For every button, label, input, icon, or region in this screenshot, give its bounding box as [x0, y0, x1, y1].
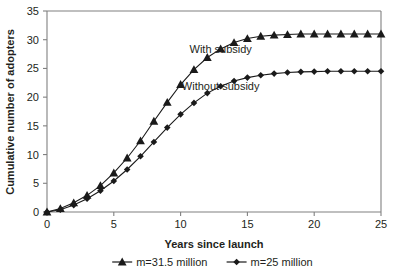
- legend-label: m=25 million: [251, 256, 313, 268]
- chart-legend: m=31.5 millionm=25 million: [112, 256, 312, 268]
- triangle-marker-icon: [149, 117, 158, 125]
- y-tick-label: 10: [27, 149, 39, 161]
- x-axis-ticks: 0510152025: [44, 212, 387, 230]
- series-layer: [43, 30, 386, 216]
- curve-annotation-1: With subsidy: [190, 43, 253, 55]
- x-tick-label: 10: [174, 218, 186, 230]
- diamond-marker-icon: [284, 69, 291, 76]
- y-tick-label: 0: [33, 206, 39, 218]
- diamond-marker-icon: [298, 69, 305, 76]
- y-axis-ticks: 05101520253035: [27, 5, 47, 218]
- curve-annotation-2: Without subsidy: [182, 80, 260, 92]
- series-1: [43, 30, 386, 216]
- plot-frame: [47, 11, 381, 212]
- cumulative-adopters-line-chart: 05101520253035 0510152025 With subsidyWi…: [0, 0, 415, 278]
- diamond-marker-icon: [364, 68, 371, 75]
- y-tick-label: 15: [27, 120, 39, 132]
- x-tick-label: 5: [111, 218, 117, 230]
- y-tick-label: 5: [33, 177, 39, 189]
- legend-item-1: m=31.5 million: [112, 256, 207, 268]
- legend-label: m=31.5 million: [136, 256, 207, 268]
- y-tick-label: 30: [27, 34, 39, 46]
- y-axis-title: Cumulative number of adopters: [4, 29, 16, 195]
- series-line: [47, 71, 381, 212]
- x-tick-label: 15: [241, 218, 253, 230]
- x-axis-title: Years since launch: [164, 238, 263, 250]
- diamond-marker-icon: [324, 68, 331, 75]
- diamond-marker-icon: [257, 72, 264, 79]
- diamond-marker-icon: [378, 68, 385, 75]
- diamond-marker-icon: [233, 259, 240, 266]
- x-tick-label: 25: [375, 218, 387, 230]
- triangle-marker-icon: [136, 136, 145, 144]
- y-tick-label: 20: [27, 91, 39, 103]
- diamond-marker-icon: [351, 68, 358, 75]
- diamond-marker-icon: [338, 68, 345, 75]
- y-tick-label: 25: [27, 62, 39, 74]
- x-tick-label: 0: [44, 218, 50, 230]
- y-tick-label: 35: [27, 5, 39, 17]
- series-line: [47, 34, 381, 212]
- x-tick-label: 20: [308, 218, 320, 230]
- diamond-marker-icon: [311, 68, 318, 75]
- chart-figure: 05101520253035 0510152025 With subsidyWi…: [0, 0, 415, 278]
- diamond-marker-icon: [271, 70, 278, 77]
- legend-item-2: m=25 million: [227, 256, 313, 268]
